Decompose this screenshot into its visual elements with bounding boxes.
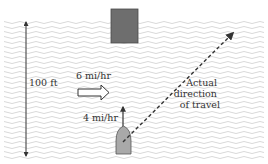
current-speed-label: 6 mi/hr [76,70,111,81]
dock-destination [111,9,138,43]
actual-direction-label-line2: direction [174,88,217,99]
river-width-label: 100 ft [29,77,58,88]
boat-icon [116,126,131,154]
river-crossing-diagram: 100 ft 6 mi/hr 4 mi/hr Actual direction … [0,0,268,164]
actual-direction-label-line1: Actual [185,77,217,88]
boat-speed-label: 4 mi/hr [83,112,118,123]
actual-direction-label-line3: of travel [180,99,220,110]
